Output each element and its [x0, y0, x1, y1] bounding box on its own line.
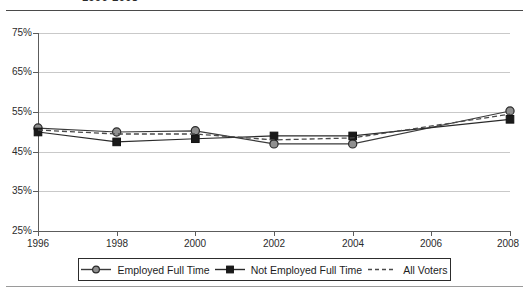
y-tick-label-75: 75% [0, 27, 32, 38]
x-tick-label-2008: 2008 [497, 238, 519, 249]
legend-item-not-employed-full-time[interactable]: Not Employed Full Time [215, 264, 362, 276]
legend-item-all-voters[interactable]: All Voters [367, 264, 447, 276]
chart-title: 1996-2008 [82, 0, 138, 3]
gridline-35 [38, 191, 510, 192]
gridline-55 [38, 112, 510, 113]
x-tick-label-1996: 1996 [27, 238, 49, 249]
top-divider-rule [6, 10, 523, 11]
x-tick-label-2002: 2002 [263, 238, 285, 249]
chart-legend: Employed Full Time Not Employed Full Tim… [78, 258, 451, 281]
x-tick-mark-1998 [117, 231, 118, 236]
legend-item-employed-full-time[interactable]: Employed Full Time [81, 264, 209, 276]
y-tick-label-45: 45% [0, 146, 32, 157]
plot-area [38, 33, 510, 231]
x-tick-label-1998: 1998 [106, 238, 128, 249]
x-tick-mark-2004 [353, 231, 354, 236]
x-tick-mark-1996 [38, 231, 39, 236]
legend-label-all-voters: All Voters [403, 264, 447, 276]
circle-marker-icon [81, 264, 111, 275]
y-tick-label-35: 35% [0, 185, 32, 196]
x-tick-mark-2006 [431, 231, 432, 236]
y-tick-label-55: 55% [0, 106, 32, 117]
y-tick-label-25: 25% [0, 225, 32, 236]
x-tick-label-2004: 2004 [342, 238, 364, 249]
x-tick-mark-2000 [195, 231, 196, 236]
x-tick-mark-2008 [510, 231, 511, 236]
chart-title-strip: 1996-2008 [0, 0, 529, 9]
legend-label-employed-full-time: Employed Full Time [117, 264, 209, 276]
y-axis-line [38, 33, 39, 232]
bottom-divider-rule [6, 286, 523, 287]
chart-figure: 1996-2008 75% 65% 55% 45% 35% 25% 1996 1… [0, 0, 529, 291]
x-tick-label-2000: 2000 [184, 238, 206, 249]
square-marker-icon [215, 264, 245, 275]
x-tick-mark-2002 [274, 231, 275, 236]
y-tick-label-65: 65% [0, 66, 32, 77]
gridline-65 [38, 72, 510, 73]
dashed-line-icon [367, 264, 397, 275]
x-tick-label-2006: 2006 [420, 238, 442, 249]
legend-label-not-employed-full-time: Not Employed Full Time [251, 264, 362, 276]
gridline-45 [38, 152, 510, 153]
gridline-75 [38, 33, 510, 34]
